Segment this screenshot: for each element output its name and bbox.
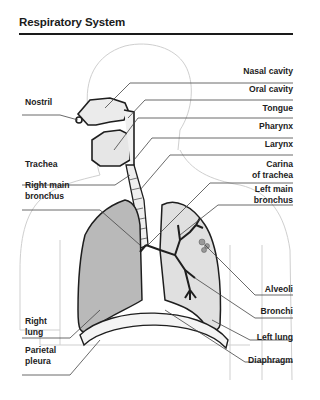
label-left-lung: Left lung	[257, 332, 293, 343]
label-alveoli: Alveoli	[265, 284, 293, 295]
left-lung-shape	[160, 202, 220, 330]
label-oral-cavity: Oral cavity	[249, 84, 293, 95]
label-larynx: Larynx	[265, 139, 293, 150]
label-carina-of-trachea: Carina of trachea	[252, 159, 293, 180]
label-parietal-pleura: Parietal pleura	[25, 345, 56, 366]
label-tongue: Tongue	[263, 103, 293, 114]
label-nasal-cavity: Nasal cavity	[243, 66, 293, 77]
label-left-main-bronchus: Left main bronchus	[254, 184, 293, 205]
label-diaphragm: Diaphragm	[248, 355, 293, 366]
label-pharynx: Pharynx	[259, 121, 293, 132]
label-trachea: Trachea	[25, 159, 58, 170]
head-airway	[76, 98, 134, 175]
label-nostril: Nostril	[25, 97, 52, 108]
right-lung-shape	[78, 200, 142, 332]
leader-lines	[22, 83, 293, 375]
label-bronchi: Bronchi	[261, 306, 293, 317]
label-right-lung: Right lung	[25, 316, 47, 337]
label-right-main-bronchus: Right main bronchus	[25, 180, 69, 201]
